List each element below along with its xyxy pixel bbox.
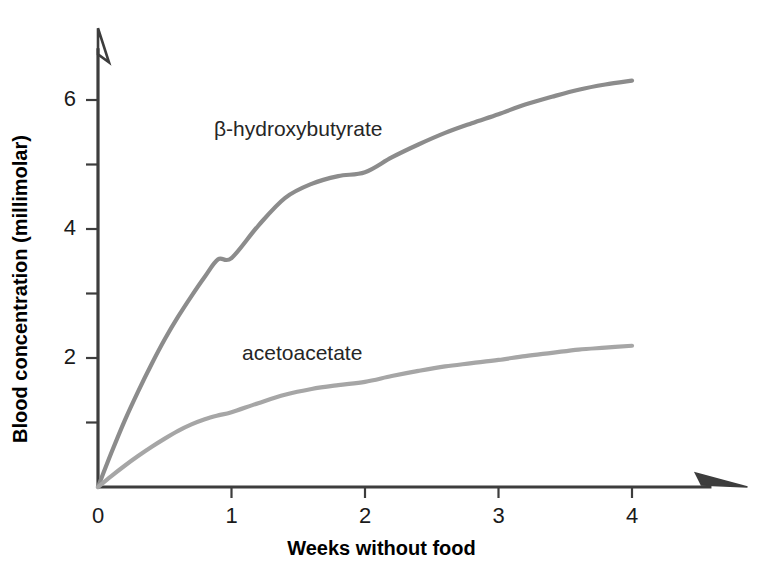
x-tick-label-3: 3 bbox=[479, 505, 519, 527]
series-line-beta-hydroxybutyrate bbox=[98, 81, 632, 487]
y-tick-label-4: 4 bbox=[36, 217, 76, 239]
x-tick-label-4: 4 bbox=[612, 505, 652, 527]
x-axis-title: Weeks without food bbox=[0, 538, 763, 558]
axes-group bbox=[97, 28, 747, 487]
series-label-beta-hydroxybutyrate: β-hydroxybutyrate bbox=[214, 117, 382, 138]
series-line-acetoacetate bbox=[98, 346, 632, 487]
chart-figure: 01234246 β-hydroxybutyrateacetoacetate W… bbox=[0, 0, 763, 578]
y-tick-label-2: 2 bbox=[36, 346, 76, 368]
y-axis-title: Blood concentration (millimolar) bbox=[0, 0, 40, 578]
x-axis-arrowhead-icon bbox=[695, 473, 747, 487]
x-tick-label-1: 1 bbox=[212, 505, 252, 527]
x-tick-label-2: 2 bbox=[345, 505, 385, 527]
y-tick-label-6: 6 bbox=[36, 88, 76, 110]
x-tick-label-0: 0 bbox=[78, 505, 118, 527]
data-series-group bbox=[98, 81, 632, 487]
y-axis-arrowhead-icon bbox=[98, 28, 109, 62]
series-label-acetoacetate: acetoacetate bbox=[242, 342, 362, 363]
chart-plot-area bbox=[0, 0, 763, 578]
